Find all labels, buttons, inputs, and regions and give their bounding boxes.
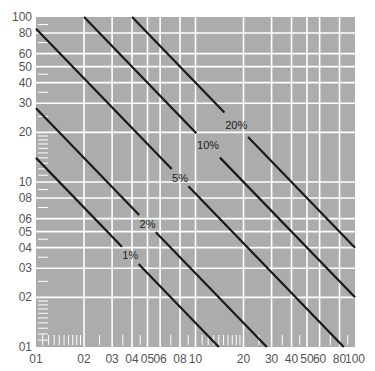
x-tick-label: 02	[77, 352, 91, 366]
y-tick-label: 80	[19, 26, 33, 40]
x-tick-label: 10	[189, 352, 203, 366]
y-tick-label: 02	[19, 290, 33, 304]
y-tick-label: 05	[19, 225, 33, 239]
log-log-chart: 1%2%5%10%20% 010203040506081020304050608…	[0, 0, 375, 371]
line-label: 2%	[140, 218, 156, 230]
y-tick-label: 40	[19, 76, 33, 90]
x-tick-label: 60	[313, 352, 327, 366]
line-label: 20%	[225, 119, 247, 131]
x-tick-label: 40	[285, 352, 299, 366]
x-tick-label: 20	[237, 352, 251, 366]
y-tick-label: 50	[19, 60, 33, 74]
line-label: 10%	[197, 139, 219, 151]
y-tick-label: 60	[19, 47, 33, 61]
line-label: 1%	[122, 249, 138, 261]
x-tick-label: 01	[29, 352, 43, 366]
y-tick-label: 100	[12, 10, 32, 24]
y-tick-label: 08	[19, 191, 33, 205]
y-tick-label: 30	[19, 96, 33, 110]
x-tick-label: 06	[153, 352, 167, 366]
y-tick-label: 03	[19, 261, 33, 275]
x-tick-label: 04	[125, 352, 139, 366]
line-label: 5%	[172, 172, 188, 184]
gridlines	[36, 17, 355, 347]
x-tick-label: 50	[300, 352, 314, 366]
x-tick-label: 100	[345, 352, 365, 366]
x-tick-label: 03	[105, 352, 119, 366]
y-tick-label: 06	[19, 212, 33, 226]
x-tick-label: 08	[173, 352, 187, 366]
y-axis-labels: 0102030405060810203040506080100	[12, 10, 32, 354]
y-tick-label: 20	[19, 125, 33, 139]
y-tick-label: 01	[19, 340, 33, 354]
x-tick-label: 30	[265, 352, 279, 366]
x-axis-labels: 0102030405060810203040506080100	[29, 352, 365, 366]
y-tick-label: 04	[19, 241, 33, 255]
x-tick-label: 05	[141, 352, 155, 366]
y-tick-label: 10	[19, 175, 33, 189]
